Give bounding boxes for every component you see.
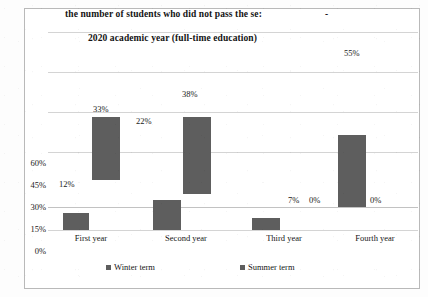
bar-first-year-winter	[63, 213, 89, 230]
y-tick-0: 0%	[6, 246, 46, 256]
y-axis: 60% 45% 30% 15% 0%	[0, 22, 46, 230]
y-tick-45: 45%	[6, 180, 46, 190]
label-first-year-summer: 33%	[93, 104, 109, 114]
label-first-year-winter: 12%	[59, 179, 75, 189]
y-tick-15: 15%	[6, 224, 46, 234]
legend-swatch-icon-summer	[240, 265, 245, 270]
label-fourth-year-winter: 0%	[370, 195, 381, 205]
chart-legend: Winter term Summer term	[48, 262, 418, 278]
chart-screenshot: the number of students who did not pass …	[0, 0, 428, 297]
label-second-year-winter: 22%	[136, 116, 152, 126]
legend-item-summer-term: Summer term	[240, 262, 295, 272]
category-label-second-year: Second year	[146, 233, 226, 243]
y-tick-60: 60%	[6, 158, 46, 168]
plot-area: 12% 33% 22% 38% 7% 0% 0% 55%	[48, 22, 418, 230]
label-third-year-summer: 0%	[309, 195, 320, 205]
legend-item-winter-term: Winter term	[106, 262, 155, 272]
label-fourth-year-summer: 55%	[344, 48, 360, 58]
legend-label-winter: Winter term	[114, 262, 155, 272]
category-label-first-year: First year	[56, 233, 126, 243]
legend-label-summer: Summer term	[248, 262, 295, 272]
category-label-fourth-year: Fourth year	[336, 233, 414, 243]
chart-title-trailing-mark: -	[325, 9, 328, 19]
label-third-year-winter: 7%	[288, 195, 299, 205]
bar-second-year-summer	[183, 117, 211, 194]
bar-third-year-winter	[252, 218, 280, 230]
category-label-third-year: Third year	[248, 233, 320, 243]
gridline-top	[48, 32, 418, 33]
legend-swatch-icon-winter	[106, 265, 111, 270]
gridline-1	[48, 72, 418, 73]
label-second-year-summer: 38%	[182, 89, 198, 99]
gridline-bottom	[48, 230, 418, 231]
bar-fourth-year-summer	[338, 135, 366, 207]
x-axis-categories: First year Second year Third year Fourth…	[48, 233, 418, 249]
bar-first-year-summer	[92, 117, 120, 180]
y-tick-30: 30%	[6, 202, 46, 212]
chart-title: the number of students who did not pass …	[65, 9, 262, 19]
gridline-baseline	[48, 207, 418, 208]
bar-second-year-winter	[153, 200, 181, 230]
